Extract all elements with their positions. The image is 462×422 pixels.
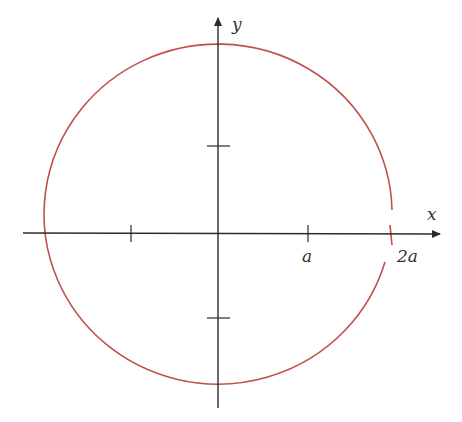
x-tick-label-a: a [302, 246, 312, 266]
y-axis-label: y [231, 14, 242, 34]
x-axis-label: x [427, 204, 437, 224]
ticks [131, 146, 308, 318]
x-tick-label-2a: 2a [396, 246, 418, 266]
x-axis [23, 233, 440, 234]
diagram: y x a 2a [0, 0, 462, 422]
